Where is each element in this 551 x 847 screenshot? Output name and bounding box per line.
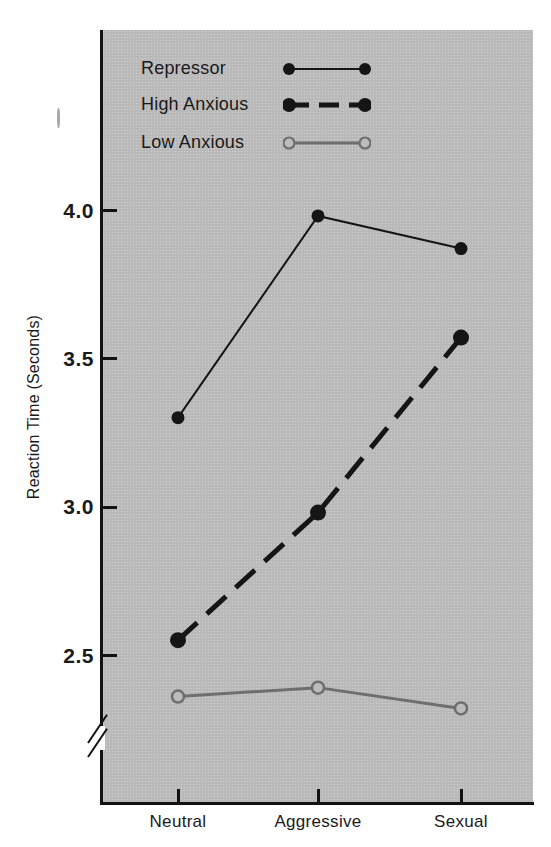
x-tick-aggressive — [317, 789, 320, 803]
y-tick-3.5: 3.5 — [103, 357, 117, 360]
legend-swatch-icon — [283, 94, 371, 116]
legend-swatch-icon — [283, 58, 371, 80]
x-tick-label-aggressive: Aggressive — [274, 812, 361, 832]
legend-item-repressor: Repressor — [141, 58, 381, 84]
y-tick-label: 3.5 — [63, 347, 94, 371]
y-tick-label: 4.0 — [63, 199, 94, 223]
legend-swatch-icon — [283, 132, 371, 154]
legend-label: Low Anxious — [141, 132, 244, 153]
y-tick-4.0: 4.0 — [103, 209, 117, 212]
legend-label: Repressor — [141, 58, 226, 79]
legend-item-low-anxious: Low Anxious — [141, 132, 381, 158]
y-tick-2.5: 2.5 — [103, 654, 117, 657]
y-tick-3.0: 3.0 — [103, 506, 117, 509]
legend-label: High Anxious — [141, 94, 248, 115]
x-tick-neutral — [177, 789, 180, 803]
y-axis-line — [100, 30, 103, 730]
y-tick-label: 3.0 — [63, 495, 94, 519]
chart-figure: 4.03.53.02.5 NeutralAggressiveSexual Rea… — [0, 0, 551, 847]
x-tick-label-neutral: Neutral — [150, 812, 207, 832]
x-tick-label-sexual: Sexual — [434, 812, 488, 832]
y-tick-label: 2.5 — [63, 644, 94, 668]
print-artifact-mark — [57, 108, 60, 128]
y-axis-title: Reaction Time (Seconds) — [25, 287, 43, 527]
legend-item-high-anxious: High Anxious — [141, 94, 381, 120]
x-tick-sexual — [460, 789, 463, 803]
axis-break-icon — [86, 718, 122, 758]
